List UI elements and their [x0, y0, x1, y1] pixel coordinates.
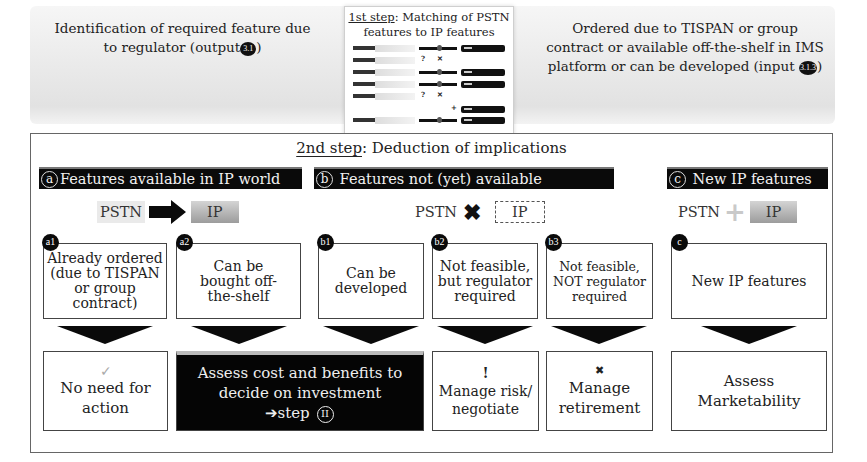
case-b2-box: Not feasible, but regulator required [432, 243, 538, 319]
step-ii-badge: II [317, 406, 334, 423]
ip-label: IP [495, 201, 544, 223]
letter-c-icon: c [669, 171, 686, 188]
ordered-input-line1: Ordered due to TISPAN or group [535, 19, 835, 38]
match-row [353, 81, 503, 88]
ordered-input-line2: contract or available off-the-shelf in I… [535, 38, 835, 57]
nomatch-row: ?✕ [353, 57, 503, 64]
ordered-input-line3-wrap: platform or can be developed (input 3.1.… [535, 57, 835, 76]
step1-title-line2: features to IP features [363, 25, 494, 39]
case-b3-badge: b3 [545, 234, 562, 251]
step1-title: 1st step: Matching of PSTN features to I… [345, 10, 513, 40]
match-row [353, 117, 503, 124]
category-a-header: aFeatures available in IP world [39, 167, 302, 189]
case-c-badge: c [671, 234, 688, 251]
input-ref-badge: 3.1.3 [799, 61, 817, 75]
close-paren: ) [256, 39, 261, 55]
result-assess-cost: Assess cost and benefits to decide on in… [176, 351, 424, 431]
regulator-output-line2: to regulator (output [104, 39, 241, 55]
result-assess-cost-text: Assess cost and benefits to decide on in… [188, 363, 413, 403]
case-b2-badge: b2 [431, 234, 448, 251]
question-mark-icon: ? [421, 54, 425, 63]
case-b3-box: Not feasible, NOT regulator required [546, 243, 653, 319]
step2-title-rest: : Deduction of implications [362, 139, 567, 157]
nomatch-row: ?✕ [353, 93, 503, 100]
x-mark-icon: ✕ [437, 90, 443, 99]
result-manage-retirement: ✖ Manage retirement [546, 351, 653, 431]
ip-label: IP [750, 201, 797, 223]
step2-frame: 2nd step: Deduction of implications aFea… [30, 133, 833, 453]
regulator-output-line1: Identification of required feature due [30, 19, 335, 38]
flow-a: PSTN IP [97, 200, 297, 224]
x-icon: ✖ [595, 364, 604, 378]
step-ii-link: ➔step II [265, 403, 336, 423]
down-arrow-icon [551, 326, 647, 344]
case-c-box: New IP features [671, 243, 827, 319]
exclamation-icon: ! [482, 364, 488, 382]
down-arrow-icon [57, 326, 153, 344]
case-c-text: New IP features [692, 274, 807, 289]
step1-title-rest: : Matching of PSTN [395, 10, 510, 24]
down-arrow-icon [437, 326, 533, 344]
match-row [353, 45, 503, 52]
step2-title: 2nd step: Deduction of implications [31, 139, 832, 157]
category-c-title: New IP features [693, 171, 812, 187]
case-b3-text: Not feasible, NOT regulator required [550, 259, 650, 304]
category-a-title: Features available in IP world [60, 171, 280, 187]
category-b-title: Features not (yet) available [340, 171, 542, 187]
case-b1-badge: b1 [317, 234, 334, 251]
ordered-input-note: Ordered due to TISPAN or group contract … [535, 19, 835, 76]
plus-icon: + [724, 201, 746, 223]
check-icon: ✓ [100, 364, 112, 378]
case-a1-text: Already ordered (due to TISPAN or group … [44, 251, 166, 311]
down-arrow-icon [701, 326, 797, 344]
step1-matching-panel: 1st step: Matching of PSTN features to I… [344, 6, 514, 136]
pstn-label: PSTN [97, 201, 145, 223]
step1-label: 1st step [348, 10, 394, 24]
result-no-action-text: No need for action [56, 378, 156, 418]
regulator-output-line2-wrap: to regulator (output3.1) [30, 38, 335, 57]
case-a2-box: Can be bought off-the-shelf [176, 243, 301, 319]
result-manage-risk-text: Manage risk/ negotiate [436, 382, 536, 418]
case-b1-box: Can be developed [318, 243, 424, 319]
output-ref-badge: 3.1 [240, 42, 256, 56]
down-arrow-icon [191, 326, 287, 344]
case-a2-text: Can be bought off-the-shelf [191, 259, 287, 304]
down-arrow-icon [323, 326, 419, 344]
case-a1-badge: a1 [42, 234, 59, 251]
ordered-input-line3: platform or can be developed (input [548, 58, 795, 74]
close-paren: ) [817, 58, 822, 74]
question-mark-icon: ? [421, 90, 425, 99]
letter-b-icon: b [316, 171, 333, 188]
case-b2-text: Not feasible, but regulator required [435, 259, 535, 304]
result-no-action: ✓ No need for action [43, 351, 168, 431]
cross-icon: ✖ [463, 201, 481, 223]
letter-a-icon: a [41, 171, 58, 188]
new-feature-row: + [353, 106, 503, 113]
result-manage-retirement-text: Manage retirement [550, 378, 650, 418]
pstn-label: PSTN [415, 201, 457, 223]
result-manage-risk: ! Manage risk/ negotiate [432, 351, 539, 431]
flow-b: PSTN ✖ IP [415, 200, 615, 224]
result-assess-marketability-text: Assess Marketability [694, 371, 804, 411]
plus-icon: + [451, 103, 457, 112]
category-c-header: c New IP features [667, 167, 828, 189]
pstn-label: PSTN [678, 201, 720, 223]
right-arrow-icon [149, 200, 187, 224]
flow-c: PSTN + IP [678, 200, 838, 224]
x-mark-icon: ✕ [437, 54, 443, 63]
step-arrow-text: ➔step [265, 404, 310, 422]
result-assess-marketability: Assess Marketability [671, 351, 827, 431]
case-b1-text: Can be developed [331, 266, 411, 296]
case-a1-box: Already ordered (due to TISPAN or group … [43, 243, 167, 319]
match-row [353, 69, 503, 76]
regulator-output-note: Identification of required feature due t… [30, 19, 335, 57]
category-b-header: b Features not (yet) available [314, 167, 614, 189]
step2-label: 2nd step [296, 139, 362, 157]
case-a2-badge: a2 [176, 234, 193, 251]
ip-label: IP [191, 201, 238, 223]
